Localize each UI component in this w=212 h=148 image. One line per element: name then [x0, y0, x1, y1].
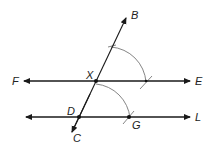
arc-tick-e: [140, 76, 152, 89]
label-e: E: [195, 75, 203, 87]
label-c: C: [73, 132, 81, 144]
label-g: G: [132, 119, 141, 131]
label-l: L: [195, 111, 201, 123]
point-e-mark: [145, 80, 148, 83]
geometry-diagram: B X F E D L G C: [0, 0, 212, 148]
arc-centered-d: [96, 84, 130, 118]
label-x: X: [85, 69, 94, 81]
point-d: [77, 115, 81, 119]
diagram-svg: B X F E D L G C: [0, 0, 212, 148]
point-x: [94, 79, 98, 83]
arc-centered-x: [111, 47, 146, 82]
point-g: [127, 115, 131, 119]
label-d: D: [67, 105, 75, 117]
label-f: F: [12, 75, 20, 87]
label-b: B: [131, 9, 138, 21]
